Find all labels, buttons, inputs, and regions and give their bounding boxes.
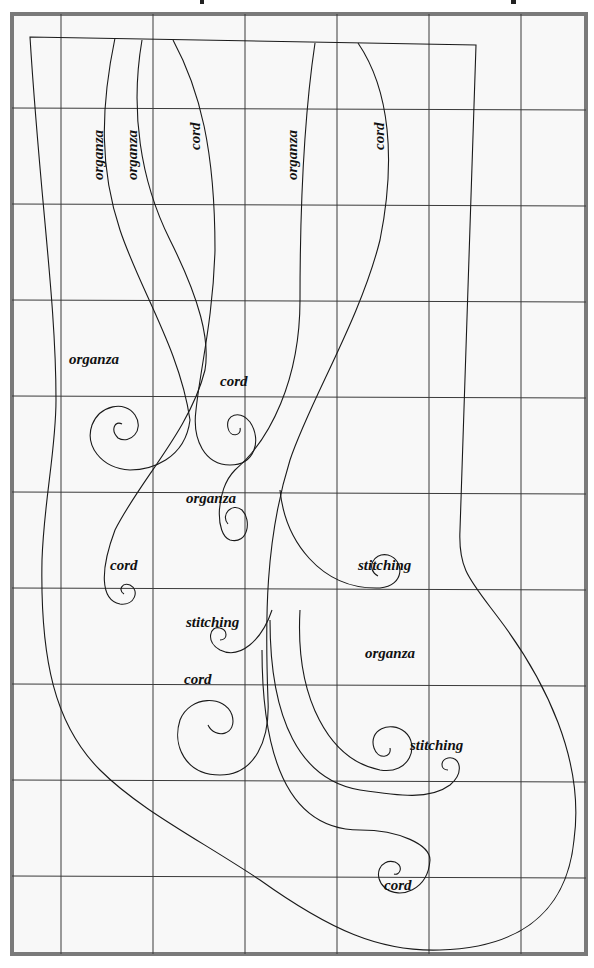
label-organza: organza xyxy=(186,490,237,506)
label-organza: organza xyxy=(69,351,120,367)
label-cord: cord xyxy=(384,877,412,893)
label-stitching: stitching xyxy=(409,737,464,753)
pattern-diagram: organza organza cord organza cord organz… xyxy=(0,0,594,968)
label-cord: cord xyxy=(184,671,212,687)
cropped-text-fragment xyxy=(511,0,516,4)
label-stitching: stitching xyxy=(357,557,412,573)
label-organza-vertical: organza xyxy=(90,129,106,180)
cropped-text-fragment xyxy=(200,0,204,4)
label-cord: cord xyxy=(220,373,248,389)
label-cord-vertical: cord xyxy=(187,122,203,150)
pattern-canvas: organza organza cord organza cord organz… xyxy=(0,0,594,968)
label-organza: organza xyxy=(365,645,416,661)
label-organza-vertical: organza xyxy=(284,129,300,180)
label-cord-vertical: cord xyxy=(371,122,387,150)
label-stitching: stitching xyxy=(185,614,240,630)
label-cord: cord xyxy=(110,557,138,573)
label-organza-vertical: organza xyxy=(124,129,140,180)
